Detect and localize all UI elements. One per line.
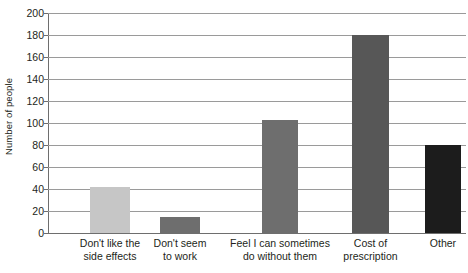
x-axis-label: Other [383,237,468,250]
gridline-80 [48,145,466,146]
y-tick-label: 160 [4,52,44,63]
y-tick-label: 120 [4,96,44,107]
y-tick-label: 80 [4,140,44,151]
y-tick-140 [44,79,48,80]
gridline-200 [48,13,466,14]
y-tick-20 [44,211,48,212]
y-tick-60 [44,167,48,168]
y-tick-180 [44,35,48,36]
gridline-100 [48,123,466,124]
gridline-180 [48,35,466,36]
y-tick-label: 140 [4,74,44,85]
x-axis-category-labels: Don't like theside effectsDon't seemto w… [48,237,466,273]
bar [90,187,130,233]
gridline-120 [48,101,466,102]
y-tick-label: 200 [4,8,44,19]
y-tick-120 [44,101,48,102]
bar [262,120,298,233]
y-tick-100 [44,123,48,124]
bar-chart: Number of people 20018016014012010080604… [0,0,468,273]
bar [352,35,389,233]
x-axis-label-line2: prescription [311,250,431,263]
x-axis-line [48,233,466,234]
y-tick-label: 100 [4,118,44,129]
plot-area [48,13,466,233]
gridline-60 [48,167,466,168]
x-axis-label-line1: Other [430,237,456,249]
bar [425,145,461,233]
y-tick-40 [44,189,48,190]
bar [160,217,200,234]
gridline-140 [48,79,466,80]
gridline-160 [48,57,466,58]
y-tick-0 [44,233,48,234]
x-axis-label-line1: Don't seem [154,237,207,249]
y-tick-label: 20 [4,206,44,217]
y-axis-tick-labels: 200180160140120100806040200 [0,0,44,233]
y-tick-label: 180 [4,30,44,41]
y-tick-160 [44,57,48,58]
y-tick-80 [44,145,48,146]
y-tick-label: 60 [4,162,44,173]
y-tick-label: 0 [4,228,44,239]
y-tick-label: 40 [4,184,44,195]
y-tick-200 [44,13,48,14]
